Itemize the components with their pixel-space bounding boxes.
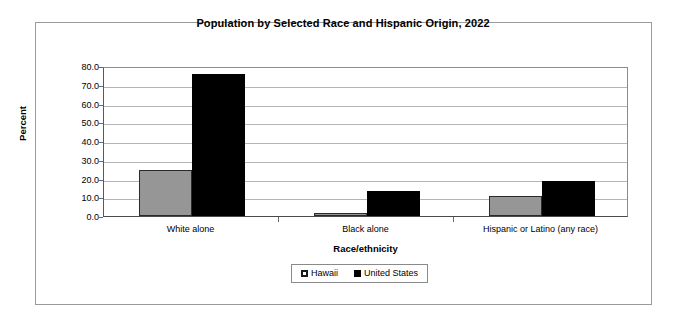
bar-hawaii-hispanic-or-latino-any-race- [489,196,542,216]
bar-hawaii-black-alone [314,213,367,216]
bar-united-states-white-alone [192,74,245,216]
gridline [104,143,627,144]
x-axis-category-label: Black alone [342,224,389,234]
legend-label: United States [364,268,418,278]
y-axis-title: Percent [17,94,28,154]
bar-hawaii-white-alone [139,170,192,217]
legend-entry-united-states: United States [354,268,418,278]
y-axis-tick-label: 60.0 [59,100,99,110]
gridline [104,87,627,88]
y-axis-tick-label: 50.0 [59,118,99,128]
y-axis-tick-labels: 0.010.020.030.040.050.060.070.080.0 [55,67,99,217]
x-axis-tick-mark [453,217,454,222]
y-axis-tick-label: 30.0 [59,156,99,166]
y-axis-tick-label: 10.0 [59,193,99,203]
chart-title: Population by Selected Race and Hispanic… [0,17,686,29]
y-axis-tick-label: 0.0 [59,212,99,222]
x-axis-title: Race/ethnicity [103,243,628,254]
x-axis-category-label: White alone [167,224,215,234]
gridline [104,124,627,125]
chart-legend: HawaiiUnited States [291,264,428,283]
gridline [104,162,627,163]
bar-united-states-black-alone [367,191,420,217]
x-axis-category-label: Hispanic or Latino (any race) [483,224,598,234]
legend-label: Hawaii [311,268,338,278]
legend-swatch-icon [301,270,308,277]
legend-swatch-icon [354,270,361,277]
y-axis-tick-label: 20.0 [59,175,99,185]
y-axis-tick-label: 70.0 [59,81,99,91]
x-axis-tick-mark [278,217,279,222]
plot-area [103,67,628,217]
legend-entry-hawaii: Hawaii [301,268,338,278]
y-axis-tick-label: 80.0 [59,62,99,72]
y-axis-tick-mark [99,217,103,218]
y-axis-tick-label: 40.0 [59,137,99,147]
bar-united-states-hispanic-or-latino-any-race- [542,181,595,216]
gridline [104,106,627,107]
